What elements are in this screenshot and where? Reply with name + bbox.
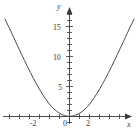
y-tick-label-15: 15 [53,24,61,32]
parabola-figure: 15 10 5 -2 0 2 y x [0,0,136,136]
y-tick-label-5: 5 [58,84,62,92]
x-tick-label-2: 2 [86,120,90,128]
x-tick-label-minus-2: -2 [30,120,36,128]
y-axis [67,7,73,124]
plot-canvas [0,0,136,136]
y-axis-name: y [57,3,61,11]
x-axis-name: x [127,121,131,129]
y-tick-label-10: 10 [53,54,61,62]
x-tick-label-0: 0 [63,120,67,128]
